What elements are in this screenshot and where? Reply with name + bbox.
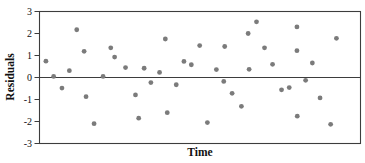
data-point — [163, 37, 168, 42]
y-axis-title: Residuals — [4, 53, 16, 100]
data-point — [189, 62, 194, 67]
data-point — [262, 45, 267, 50]
data-point — [295, 25, 300, 30]
data-point — [303, 78, 308, 83]
data-point — [165, 110, 170, 115]
data-point — [101, 74, 106, 79]
data-point — [205, 120, 210, 125]
residual-scatter-plot: 3210-1-2-3 Residuals Time — [0, 0, 365, 163]
data-point — [92, 121, 97, 126]
data-point — [112, 55, 117, 60]
data-point — [84, 94, 89, 99]
data-point — [295, 48, 300, 53]
data-point — [60, 86, 65, 91]
data-point — [133, 92, 138, 97]
y-tick-label: -3 — [24, 138, 32, 149]
data-point — [254, 19, 259, 24]
data-point — [310, 61, 315, 66]
y-tick-label: 2 — [27, 28, 32, 39]
data-point — [270, 62, 275, 67]
data-point — [74, 27, 79, 32]
data-point — [239, 104, 244, 109]
data-point — [295, 114, 300, 119]
data-point — [247, 67, 252, 72]
y-tick-label: -2 — [24, 116, 32, 127]
data-point — [246, 31, 251, 36]
data-point — [108, 45, 113, 50]
data-point — [328, 122, 333, 127]
data-point — [67, 68, 72, 73]
data-point — [51, 74, 56, 79]
data-point — [142, 66, 147, 71]
data-point — [44, 59, 49, 64]
data-point — [214, 67, 219, 72]
data-point — [222, 44, 227, 49]
data-point — [174, 82, 179, 87]
data-point — [123, 65, 128, 70]
data-point — [230, 91, 235, 96]
data-point — [221, 79, 226, 84]
data-point — [136, 116, 141, 121]
y-tick-label: 3 — [27, 6, 32, 17]
data-point — [148, 80, 153, 85]
y-tick-label: 0 — [27, 72, 32, 83]
data-point — [157, 70, 162, 75]
data-point — [197, 43, 202, 48]
data-point — [279, 87, 284, 92]
data-point — [334, 36, 339, 41]
data-point — [287, 85, 292, 90]
data-point — [82, 49, 87, 54]
data-point — [318, 96, 323, 101]
x-axis-title: Time — [187, 146, 212, 158]
y-tick-label: 1 — [27, 50, 32, 61]
chart-canvas: 3210-1-2-3 — [0, 0, 365, 163]
data-point — [182, 59, 187, 64]
y-tick-label: -1 — [24, 94, 32, 105]
